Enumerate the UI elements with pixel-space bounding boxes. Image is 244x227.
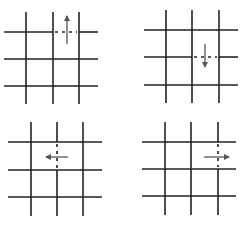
panel-top-right (144, 10, 238, 103)
figure-caption (40, 219, 210, 227)
panel-bottom-left (8, 122, 102, 216)
panel-top-left (4, 12, 98, 104)
panel-bottom-right (142, 122, 236, 215)
grid-diagram (0, 0, 244, 227)
